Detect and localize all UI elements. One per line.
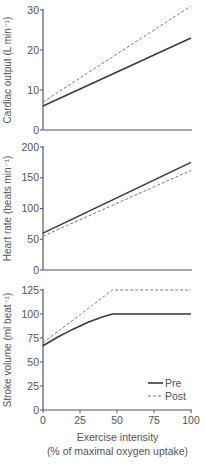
x-axis-label-line1: Exercise intensity [30,430,205,444]
x-tick-label: 100 [182,414,200,426]
y-tick-label: 0 [33,124,39,136]
y-tick-label: 30 [27,4,39,16]
y-tick-label: 20 [27,44,39,56]
series-pre-line [43,38,191,106]
y-tick-label: 75 [27,332,39,344]
figure: 0102030Cardiac output (L min⁻¹) 05010015… [0,0,205,464]
x-axis-label-line2: (% of maximal oxygen uptake) [30,444,205,458]
y-axis-label: Heart rate (beats min⁻¹) [2,156,13,262]
y-tick-label: 50 [27,356,39,368]
stroke-volume-panel: 02550751001250255075100Stroke volume (ml… [2,284,200,427]
y-tick-label: 0 [33,404,39,416]
x-tick-label: 50 [111,414,123,426]
y-tick-label: 10 [27,84,39,96]
series-pre-line [43,162,191,233]
y-tick-label: 200 [21,141,39,153]
y-tick-label: 0 [33,264,39,276]
legend: PrePost [148,377,186,402]
y-tick-label: 50 [27,233,39,245]
x-tick-label: 75 [148,414,160,426]
x-tick-label: 25 [74,414,86,426]
y-tick-label: 150 [21,171,39,183]
y-axis-label: Cardiac output (L min⁻¹) [2,17,13,124]
legend-post-label: Post [165,390,186,402]
series-post-line [43,6,191,102]
x-tick-label: 0 [40,414,46,426]
series-pre-line [43,314,191,346]
y-tick-label: 25 [27,380,39,392]
y-tick-label: 100 [21,308,39,320]
series-post-line [43,170,191,236]
y-axis-label: Stroke volume (ml beat⁻¹) [2,293,13,407]
heart-rate-panel: 050100150200Heart rate (beats min⁻¹) [2,141,192,276]
y-tick-label: 125 [21,284,39,296]
legend-pre-label: Pre [165,377,182,389]
y-tick-label: 100 [21,202,39,214]
series-post-line [43,290,191,343]
cardiac-output-panel: 0102030Cardiac output (L min⁻¹) [2,4,192,136]
